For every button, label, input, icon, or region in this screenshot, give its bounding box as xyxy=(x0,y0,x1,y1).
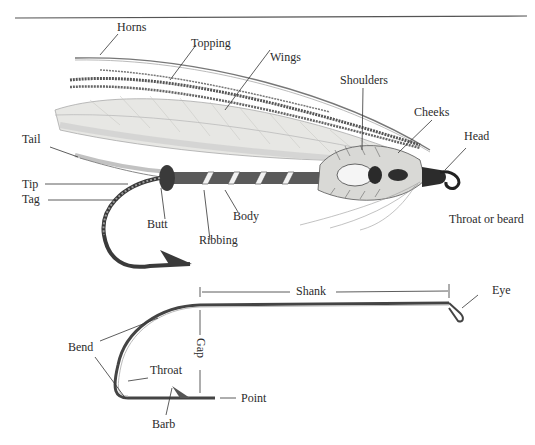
head-drawing xyxy=(422,167,446,187)
cheeks-drawing xyxy=(368,166,382,184)
label-bend: Bend xyxy=(68,341,93,354)
eye-drawing xyxy=(449,303,463,321)
label-tip: Tip xyxy=(22,178,38,191)
label-cheeks: Cheeks xyxy=(414,106,449,119)
label-butt: Butt xyxy=(147,218,168,231)
label-throat: Throat xyxy=(150,364,182,377)
label-throat-or-beard: Throat or beard xyxy=(449,213,524,226)
label-head: Head xyxy=(464,130,489,143)
label-barb: Barb xyxy=(152,418,175,431)
label-topping: Topping xyxy=(191,37,231,50)
top-rule xyxy=(15,16,527,18)
body-drawing xyxy=(172,172,322,184)
label-ribbing: Ribbing xyxy=(199,234,238,247)
fly-illustration xyxy=(55,58,459,267)
fly-anatomy-diagram: Horns Topping Wings Shoulders Cheeks Hea… xyxy=(0,0,535,445)
label-shank: Shank xyxy=(296,285,326,298)
label-point: Point xyxy=(241,392,266,405)
label-gap: Gap xyxy=(194,338,207,358)
label-shoulders: Shoulders xyxy=(340,74,388,87)
hook-illustration xyxy=(115,303,463,398)
barb-drawing xyxy=(172,386,190,398)
hook-drawing xyxy=(115,303,449,398)
label-tail: Tail xyxy=(22,133,41,146)
butt-drawing xyxy=(159,165,175,191)
label-eye: Eye xyxy=(492,284,511,297)
label-horns: Horns xyxy=(117,21,146,34)
label-tag: Tag xyxy=(22,193,40,206)
label-wings: Wings xyxy=(270,51,301,64)
label-body: Body xyxy=(233,210,259,223)
